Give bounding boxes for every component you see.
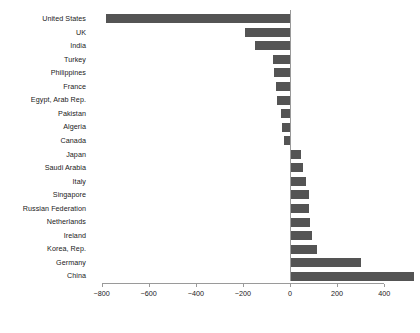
category-label: Japan <box>0 148 86 162</box>
x-axis-tick <box>243 284 244 287</box>
category-label: China <box>0 269 86 283</box>
chart-row: UK <box>0 26 420 40</box>
bar <box>282 123 290 132</box>
chart-row: Germany <box>0 256 420 270</box>
x-axis-tick <box>384 284 385 287</box>
chart-row: Egypt, Arab Rep. <box>0 93 420 107</box>
plot-area: United StatesUKIndiaTurkeyPhilippinesFra… <box>0 0 420 333</box>
chart-row: Philippines <box>0 66 420 80</box>
chart-row: Pakistan <box>0 107 420 121</box>
bar <box>290 258 361 267</box>
category-label: Egypt, Arab Rep. <box>0 93 86 107</box>
chart-row: Algeria <box>0 120 420 134</box>
x-axis-tick <box>149 284 150 287</box>
category-label: France <box>0 80 86 94</box>
chart-row: Singapore <box>0 188 420 202</box>
chart-row: India <box>0 39 420 53</box>
chart-row: Canada <box>0 134 420 148</box>
bar <box>290 231 312 240</box>
chart-row: Japan <box>0 148 420 162</box>
bar <box>106 14 290 23</box>
category-label: Turkey <box>0 53 86 67</box>
category-label: United States <box>0 12 86 26</box>
bar <box>290 150 301 159</box>
bar-chart: United StatesUKIndiaTurkeyPhilippinesFra… <box>0 0 420 333</box>
chart-row: Ireland <box>0 229 420 243</box>
chart-row: United States <box>0 12 420 26</box>
bar <box>290 218 310 227</box>
chart-row: Turkey <box>0 53 420 67</box>
x-axis-tick <box>290 284 291 287</box>
bar <box>276 82 290 91</box>
zero-axis-line <box>290 10 291 281</box>
chart-row: Italy <box>0 175 420 189</box>
x-axis-tick-label: −400 <box>188 289 204 298</box>
bar <box>290 272 414 281</box>
x-axis-tick-label: −600 <box>141 289 157 298</box>
x-axis-tick <box>196 284 197 287</box>
chart-row: Netherlands <box>0 215 420 229</box>
bar <box>290 163 303 172</box>
category-label: India <box>0 39 86 53</box>
bar <box>290 245 317 254</box>
x-axis-tick-label: 400 <box>378 289 390 298</box>
category-label: Philippines <box>0 66 86 80</box>
category-label: Singapore <box>0 188 86 202</box>
category-label: Canada <box>0 134 86 148</box>
bar <box>255 41 290 50</box>
category-label: Korea, Rep. <box>0 242 86 256</box>
bar <box>290 204 309 213</box>
category-label: Germany <box>0 256 86 270</box>
category-label: Ireland <box>0 229 86 243</box>
chart-row: Korea, Rep. <box>0 242 420 256</box>
category-label: Netherlands <box>0 215 86 229</box>
chart-row: France <box>0 80 420 94</box>
x-axis-tick-label: −800 <box>93 289 109 298</box>
bar <box>245 28 290 37</box>
x-axis-tick-label: −200 <box>235 289 251 298</box>
x-axis-tick <box>102 284 103 287</box>
category-label: Algeria <box>0 120 86 134</box>
category-label: Italy <box>0 175 86 189</box>
bar <box>281 109 290 118</box>
category-label: Russian Federation <box>0 202 86 216</box>
bar <box>273 55 290 64</box>
x-axis-tick <box>337 284 338 287</box>
bar <box>290 177 306 186</box>
bar <box>290 190 309 199</box>
x-axis-tick-label: 200 <box>331 289 343 298</box>
category-label: UK <box>0 26 86 40</box>
category-label: Pakistan <box>0 107 86 121</box>
chart-row: Russian Federation <box>0 202 420 216</box>
chart-row: China <box>0 269 420 283</box>
bar <box>277 96 290 105</box>
category-label: Saudi Arabia <box>0 161 86 175</box>
x-axis-tick-label: 0 <box>288 289 292 298</box>
bar <box>274 68 290 77</box>
chart-row: Saudi Arabia <box>0 161 420 175</box>
